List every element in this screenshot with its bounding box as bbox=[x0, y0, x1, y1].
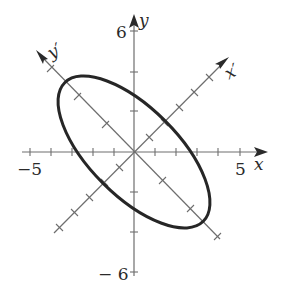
x-axis-min-label: −5 bbox=[17, 159, 42, 179]
x-axis-max-label: 5 bbox=[235, 159, 246, 179]
rotated-ellipse-diagram: −5 5 x 6 y − 6 y′ x′ bbox=[0, 0, 290, 300]
y-axis-min-label: − 6 bbox=[98, 264, 128, 284]
y-axis bbox=[129, 14, 139, 276]
x-axis bbox=[22, 147, 268, 157]
y-axis-label: y bbox=[138, 10, 149, 30]
y-prime-axis bbox=[36, 50, 221, 240]
x-prime-axis bbox=[54, 57, 229, 233]
y-axis-max-label: 6 bbox=[116, 22, 127, 42]
x-axis-label: x bbox=[254, 154, 264, 174]
